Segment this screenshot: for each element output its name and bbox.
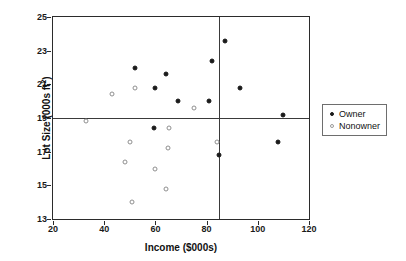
data-point-nonowner xyxy=(127,139,132,144)
x-axis-tick-label: 20 xyxy=(48,225,58,234)
x-axis-tick-label: 100 xyxy=(250,225,265,234)
legend-label: Owner xyxy=(337,108,366,120)
legend-label: Nonowner xyxy=(337,120,380,132)
data-point-nonowner xyxy=(166,146,171,151)
x-axis-tick-label: 40 xyxy=(99,225,109,234)
data-point-owner xyxy=(153,85,158,90)
data-point-owner xyxy=(163,72,168,77)
y-axis-tick-label: 13 xyxy=(37,215,47,224)
data-point-owner xyxy=(152,126,157,131)
data-point-nonowner xyxy=(163,186,168,191)
data-point-nonowner xyxy=(153,166,158,171)
chart-legend: OwnerNonowner xyxy=(322,104,387,136)
data-point-owner xyxy=(176,99,181,104)
legend-item-owner[interactable]: Owner xyxy=(327,108,380,120)
y-axis-tick xyxy=(47,185,51,186)
x-axis-tick-label: 80 xyxy=(202,225,212,234)
plot-area: 1315171921232520406080100120 xyxy=(52,16,310,220)
y-axis-tick xyxy=(47,17,51,18)
data-point-owner xyxy=(222,38,227,43)
filled-circle-icon xyxy=(327,112,337,116)
y-axis-tick-label: 23 xyxy=(37,46,47,55)
y-axis-title: Lot Size (000s ft2) xyxy=(40,76,52,159)
data-point-owner xyxy=(132,65,137,70)
data-point-nonowner xyxy=(191,105,196,110)
legend-item-nonowner[interactable]: Nonowner xyxy=(327,120,380,132)
scatter-plot-figure: 1315171921232520406080100120 Lot Size (0… xyxy=(0,0,406,261)
data-point-owner xyxy=(276,139,281,144)
data-point-nonowner xyxy=(109,92,114,97)
data-point-nonowner xyxy=(130,200,135,205)
open-circle-icon xyxy=(327,124,337,128)
x-axis-tick-label: 120 xyxy=(301,225,316,234)
x-axis-tick-label: 60 xyxy=(150,225,160,234)
y-axis-tick-label: 25 xyxy=(37,13,47,22)
data-point-nonowner xyxy=(122,159,127,164)
data-point-nonowner xyxy=(214,139,219,144)
reference-line-vertical xyxy=(219,17,220,219)
y-axis-tick xyxy=(47,219,51,220)
y-axis-tick-label: 15 xyxy=(37,181,47,190)
data-point-owner xyxy=(281,112,286,117)
data-point-owner xyxy=(237,85,242,90)
reference-line-horizontal xyxy=(53,118,309,119)
data-point-owner xyxy=(209,58,214,63)
data-point-nonowner xyxy=(84,119,89,124)
data-point-nonowner xyxy=(132,85,137,90)
data-point-owner xyxy=(217,153,222,158)
data-point-owner xyxy=(207,99,212,104)
x-axis-title: Income ($000s) xyxy=(52,242,310,253)
data-point-nonowner xyxy=(167,126,172,131)
y-axis-tick xyxy=(47,51,51,52)
